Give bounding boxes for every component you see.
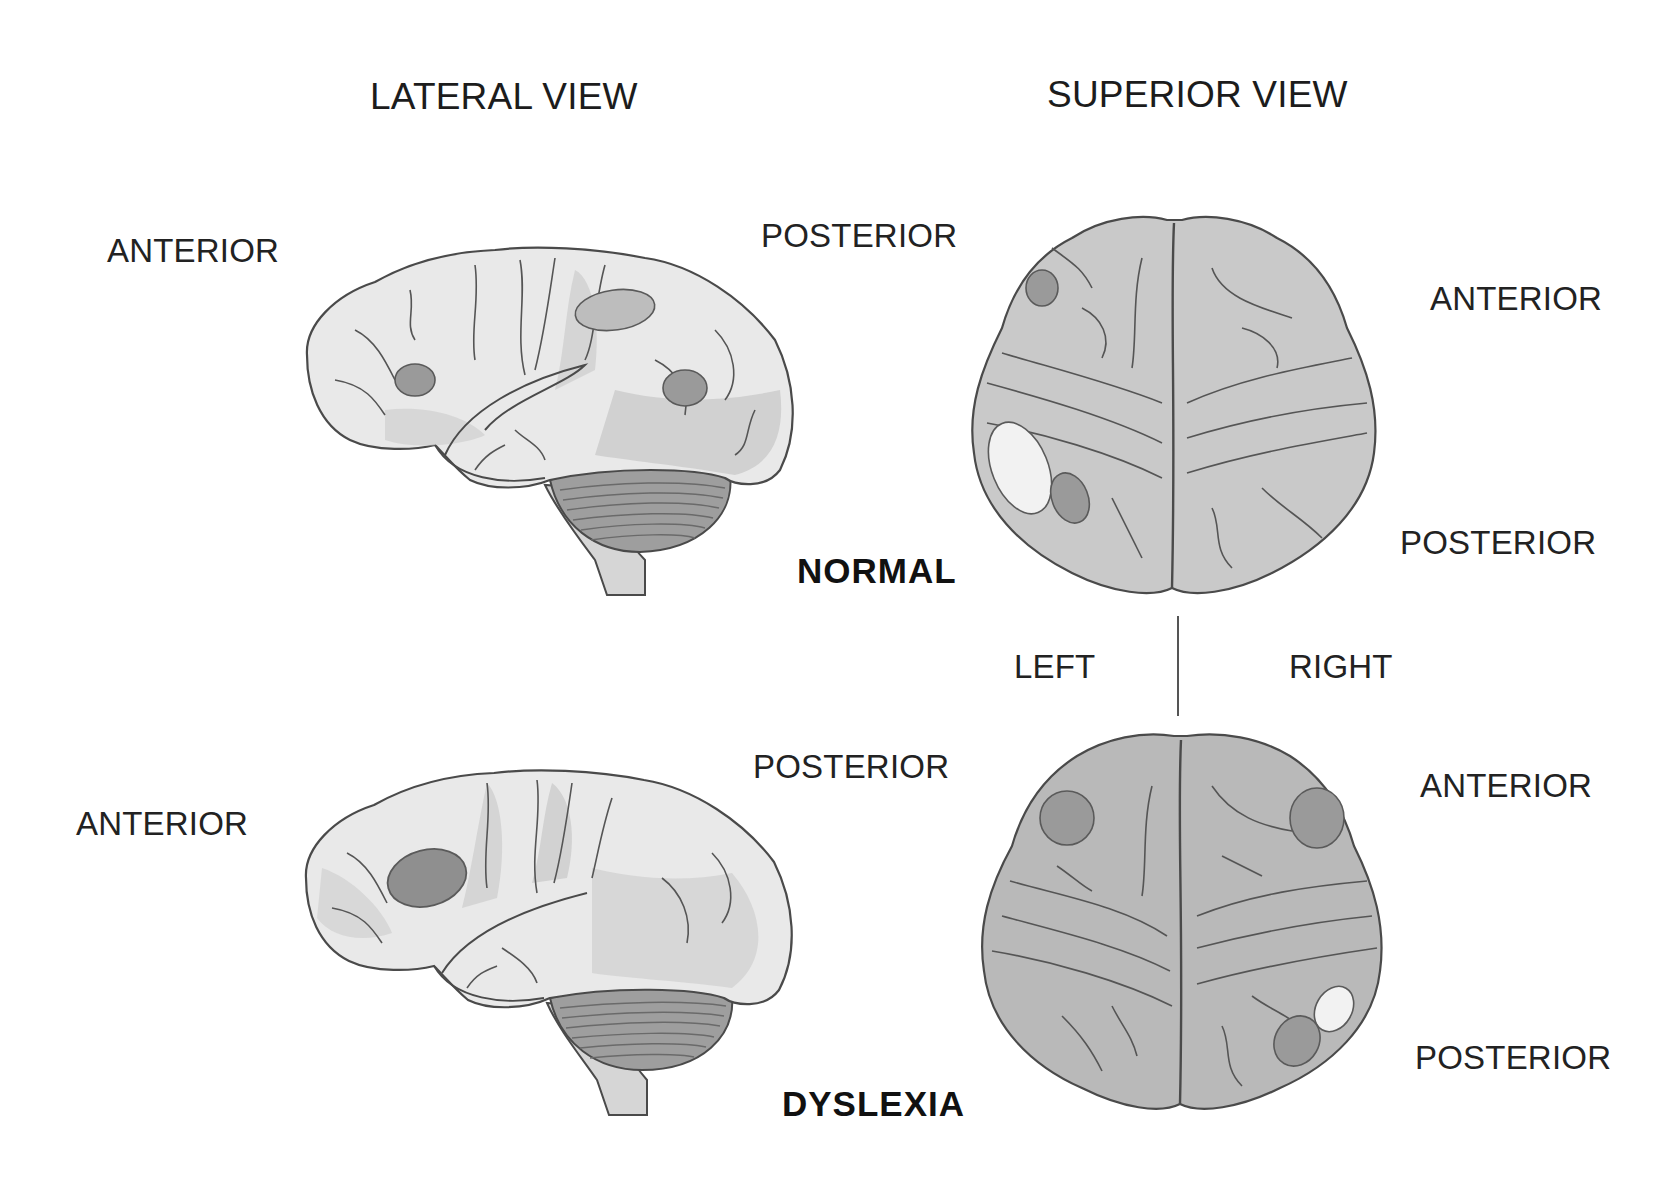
superior-view-title: SUPERIOR VIEW bbox=[1047, 76, 1348, 113]
midline-divider bbox=[1177, 616, 1179, 716]
right-hemisphere-label: RIGHT bbox=[1289, 650, 1393, 683]
dyslexia-superior-brain-illustration bbox=[972, 726, 1392, 1118]
dyslexia-label: DYSLEXIA bbox=[782, 1086, 965, 1121]
dyslexia-superior-anterior-label: ANTERIOR bbox=[1420, 769, 1592, 802]
lateral-view-title: LATERAL VIEW bbox=[370, 78, 638, 115]
left-hemisphere-label: LEFT bbox=[1014, 650, 1095, 683]
normal-superior-posterior-label: POSTERIOR bbox=[1400, 526, 1596, 559]
normal-lateral-anterior-label: ANTERIOR bbox=[107, 234, 279, 267]
normal-superior-anterior-label: ANTERIOR bbox=[1430, 282, 1602, 315]
normal-lateral-brain-illustration bbox=[295, 240, 835, 600]
normal-superior-brain-illustration bbox=[962, 208, 1387, 603]
dyslexia-lateral-brain-illustration bbox=[292, 758, 832, 1123]
dyslexia-superior-posterior-label: POSTERIOR bbox=[1415, 1041, 1611, 1074]
normal-label: NORMAL bbox=[797, 553, 957, 588]
dyslexia-lateral-anterior-label: ANTERIOR bbox=[76, 807, 248, 840]
